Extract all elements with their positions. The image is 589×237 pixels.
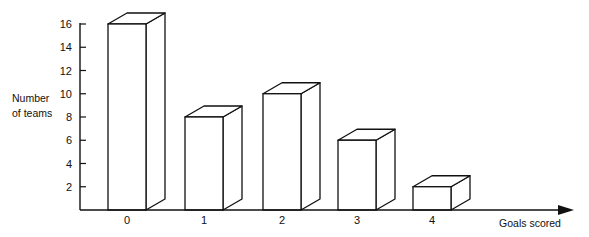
y-tick-label: 8 <box>66 111 72 123</box>
bars <box>108 13 470 210</box>
x-tick-label: 3 <box>354 214 360 226</box>
bar-4 <box>413 176 470 210</box>
y-tick-label: 10 <box>60 88 72 100</box>
x-tick-label: 0 <box>124 214 130 226</box>
y-axis-label-line: Number <box>12 92 50 104</box>
y-axis-label: Numberof teams <box>12 92 52 119</box>
y-axis-ticks: 246810121416 <box>60 18 86 193</box>
x-tick-label: 1 <box>201 214 207 226</box>
y-tick-label: 16 <box>60 18 72 30</box>
x-axis-arrow-icon <box>558 205 574 215</box>
bar-chart: Numberof teams 246810121416 01234 Goals … <box>0 0 589 237</box>
x-axis-label: Goals scored <box>499 217 561 229</box>
bar-0 <box>108 13 165 210</box>
y-tick-label: 2 <box>66 181 72 193</box>
bar-1 <box>185 106 242 210</box>
x-tick-label: 4 <box>429 214 435 226</box>
x-axis-tick-labels: 01234 <box>124 214 435 226</box>
x-tick-label: 2 <box>279 214 285 226</box>
bar-3 <box>338 129 395 210</box>
bar-2 <box>263 83 320 210</box>
y-tick-label: 12 <box>60 65 72 77</box>
y-tick-label: 6 <box>66 134 72 146</box>
y-tick-label: 14 <box>60 41 72 53</box>
y-axis-label-line: of teams <box>12 107 52 119</box>
y-tick-label: 4 <box>66 158 72 170</box>
